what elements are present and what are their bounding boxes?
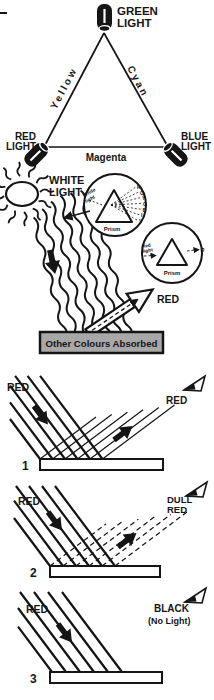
incident-direction-arrow bbox=[52, 620, 77, 647]
result-label-line2: RED bbox=[167, 504, 187, 515]
blue-light-label-line2: LIGHT bbox=[181, 141, 211, 152]
green-lamp-icon bbox=[97, 4, 112, 31]
colour-theory-diagram-page: GREEN LIGHT RED LIGHT BLUE LIGHT Yellow … bbox=[0, 0, 214, 700]
sun-ray bbox=[35, 174, 48, 183]
red-prism-label: Prism bbox=[164, 270, 181, 276]
white-prism-circle: White light R O Y G B I V Prism bbox=[82, 174, 147, 236]
diagram-number: 2 bbox=[30, 566, 37, 580]
absorbed-box-label: Other Colours Absorbed bbox=[46, 338, 158, 349]
absorbed-box: Other Colours Absorbed bbox=[40, 332, 163, 353]
red-prism-input-ray bbox=[144, 256, 156, 257]
sun-ray bbox=[8, 211, 17, 224]
diagram-number: 1 bbox=[22, 459, 29, 473]
sun-ray bbox=[2, 167, 11, 180]
result-label-line1: RED bbox=[166, 395, 187, 406]
red-prism-output-letter: R bbox=[201, 248, 205, 253]
eye-icon bbox=[185, 588, 206, 603]
red-prism-circle: Red light R Prism bbox=[141, 223, 205, 283]
sun-ray bbox=[24, 212, 27, 226]
white-light-label-line2: LIGHT bbox=[49, 186, 82, 198]
incident-label: RED bbox=[7, 381, 30, 393]
result-label-line1: BLACK bbox=[154, 603, 190, 614]
diagram-number: 3 bbox=[30, 672, 37, 686]
spectrum-letter-b: B bbox=[143, 207, 147, 213]
reflected-red-label: RED bbox=[157, 293, 180, 305]
eye-icon bbox=[184, 376, 205, 391]
sun-ray bbox=[0, 205, 9, 214]
incident-label: RED bbox=[18, 495, 41, 507]
red-light-label-line2: LIGHT bbox=[6, 141, 36, 152]
white-prism-label: Prism bbox=[104, 226, 121, 232]
result-label-line2: (No Light) bbox=[148, 616, 190, 626]
green-light-label-line1: GREEN bbox=[117, 5, 158, 17]
incident-label: RED bbox=[26, 603, 49, 615]
reflection-diagram-2: RED DULL RED 2 bbox=[14, 482, 207, 580]
white-light-label-line1: WHITE bbox=[49, 174, 84, 186]
sun-ray bbox=[39, 199, 52, 208]
surface-bar bbox=[50, 672, 162, 683]
eye-icon bbox=[186, 482, 207, 497]
surface-bar bbox=[50, 566, 160, 577]
sun-ray bbox=[17, 162, 20, 176]
reflection-diagram-3: RED BLACK (No Light) 3 bbox=[18, 588, 206, 686]
edge-label-magenta: Magenta bbox=[86, 152, 127, 163]
reflection-diagram-1: RED RED 1 bbox=[7, 376, 205, 473]
surface-bar bbox=[40, 459, 163, 470]
dispersion-section: WHITE LIGHT White light bbox=[0, 162, 205, 356]
green-light-label-line2: LIGHT bbox=[117, 17, 152, 29]
sun-ray bbox=[0, 196, 4, 199]
colour-triangle-section: GREEN LIGHT RED LIGHT BLUE LIGHT Yellow … bbox=[0, 4, 211, 169]
sun-ray bbox=[0, 180, 5, 189]
